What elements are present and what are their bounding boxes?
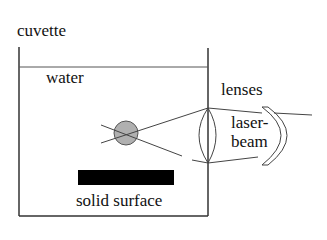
lenses-label: lenses xyxy=(221,82,263,98)
solid-surface-bar xyxy=(78,170,174,185)
solid-surface-label: solid surface xyxy=(76,193,162,209)
water-label: water xyxy=(46,70,84,86)
particle-circle xyxy=(114,121,138,145)
laser-label: laser- xyxy=(231,115,268,131)
cuvette-label: cuvette xyxy=(17,23,66,39)
beam-label: beam xyxy=(231,134,268,150)
